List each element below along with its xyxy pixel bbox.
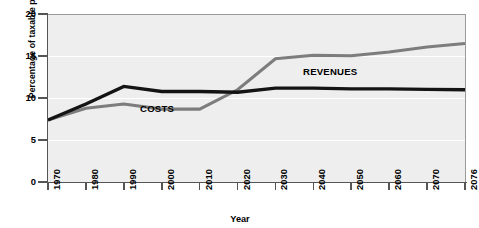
costs-line	[48, 44, 465, 120]
x-tick-label-1970: 1970	[52, 169, 62, 190]
y-tick-15	[38, 55, 47, 57]
y-tick-label-20: 20	[8, 9, 36, 19]
y-tick-label-0: 0	[8, 177, 36, 187]
x-axis-title: Year	[200, 214, 280, 224]
y-tick-5	[38, 139, 47, 141]
x-tick-label-2020: 2020	[242, 169, 252, 190]
x-tick-2060	[388, 182, 390, 190]
x-tick-2076	[464, 182, 466, 190]
x-tick-2020	[237, 182, 239, 190]
x-tick-label-1990: 1990	[128, 169, 138, 190]
y-tick-label-10: 10	[8, 93, 36, 103]
x-tick-label-2060: 2060	[393, 169, 403, 190]
x-tick-2070	[426, 182, 428, 190]
x-tick-2000	[161, 182, 163, 190]
x-axis-line	[47, 182, 467, 184]
y-tick-20	[38, 13, 47, 15]
y-axis-labels: 05101520	[0, 0, 36, 182]
revenues-line	[48, 86, 465, 120]
x-tick-2010	[199, 182, 201, 190]
x-tick-label-2050: 2050	[355, 169, 365, 190]
y-tick-10	[38, 97, 47, 99]
series-lines	[48, 15, 465, 183]
x-tick-label-2000: 2000	[166, 169, 176, 190]
x-tick-1980	[85, 182, 87, 190]
x-tick-2050	[350, 182, 352, 190]
x-tick-1970	[47, 182, 49, 190]
y-tick-0	[38, 181, 47, 183]
x-tick-label-2030: 2030	[279, 169, 289, 190]
series-label-revenues: REVENUES	[303, 66, 357, 77]
x-tick-1990	[123, 182, 125, 190]
x-tick-label-1980: 1980	[90, 169, 100, 190]
x-tick-label-2070: 2070	[431, 169, 441, 190]
series-label-costs: COSTS	[140, 103, 174, 114]
y-tick-label-5: 5	[8, 135, 36, 145]
x-tick-label-2076: 2076	[469, 169, 479, 190]
x-tick-2040	[313, 182, 315, 190]
x-tick-label-2040: 2040	[317, 169, 327, 190]
plot-area	[48, 14, 466, 183]
x-tick-label-2010: 2010	[204, 169, 214, 190]
x-tick-2030	[275, 182, 277, 190]
y-tick-label-15: 15	[8, 51, 36, 61]
